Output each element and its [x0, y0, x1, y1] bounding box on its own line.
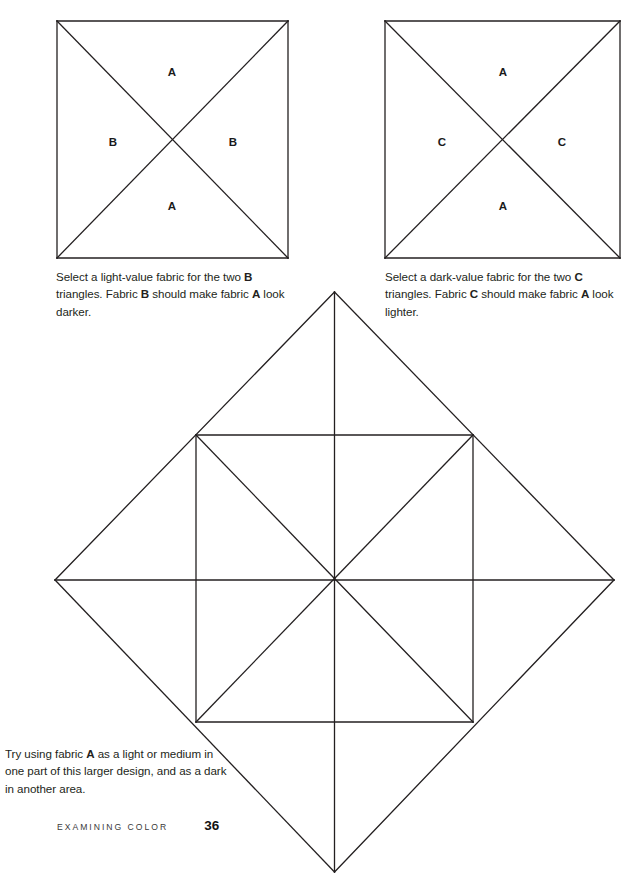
quarter-square-triangle-block-ab-diagonal-tl-br [57, 21, 288, 258]
quarter-square-triangle-block-ac-diagonal-tl-br [385, 21, 620, 258]
caption-block-ab: Select a light-value fabric for the two … [56, 268, 302, 320]
page-footer: EXAMINING COLOR 36 [57, 818, 219, 833]
fabric-label-a: A [499, 66, 508, 78]
fabric-label-c: C [558, 136, 567, 148]
footer-page-number: 36 [204, 818, 219, 833]
fabric-label-a: A [499, 200, 508, 212]
large-on-point-quilt-design-edge-top-left [55, 292, 335, 580]
large-on-point-quilt-design-edge-top-right [335, 292, 615, 580]
caption-text-run: triangles. Fabric [385, 287, 470, 300]
caption-large-design: Try using fabric A as a light or medium … [5, 745, 227, 797]
quarter-square-triangle-block-ab-diagonal-tr-bl [57, 21, 288, 258]
caption-fabric-letter: A [581, 287, 589, 300]
large-on-point-quilt-design-inner-diagonal-bl [196, 579, 335, 723]
caption-fabric-letter: C [574, 270, 582, 283]
caption-text-run: triangles. Fabric [56, 287, 141, 300]
caption-text-run: Try using fabric [5, 747, 86, 760]
caption-fabric-letter: C [470, 287, 478, 300]
large-on-point-quilt-design-edge-bottom-right [335, 580, 615, 872]
quarter-square-triangle-block-ac-diagonal-tr-bl [385, 21, 620, 258]
caption-fabric-letter: A [86, 747, 94, 760]
large-on-point-quilt-design-inner-diagonal-tl [196, 435, 335, 579]
fabric-label-a: A [168, 66, 177, 78]
fabric-label-c: C [438, 136, 447, 148]
caption-text-run: should make fabric [478, 287, 581, 300]
large-on-point-quilt-design-inner-diagonal-tr [335, 435, 474, 579]
caption-text-run: Select a dark-value fabric for the two [385, 270, 574, 283]
fabric-label-a: A [168, 200, 177, 212]
caption-fabric-letter: A [252, 287, 260, 300]
fabric-label-b: B [109, 136, 118, 148]
caption-fabric-letter: B [141, 287, 149, 300]
footer-section-title: EXAMINING COLOR [57, 822, 168, 832]
caption-text-run: should make fabric [149, 287, 252, 300]
caption-fabric-letter: B [244, 270, 252, 283]
fabric-label-b: B [229, 136, 238, 148]
large-on-point-quilt-design-inner-diagonal-br [335, 579, 474, 723]
caption-text-run: Select a light-value fabric for the two [56, 270, 244, 283]
caption-block-ac: Select a dark-value fabric for the two C… [385, 268, 631, 320]
page-canvas: ABBAACCA Select a light-value fabric for… [0, 0, 644, 882]
